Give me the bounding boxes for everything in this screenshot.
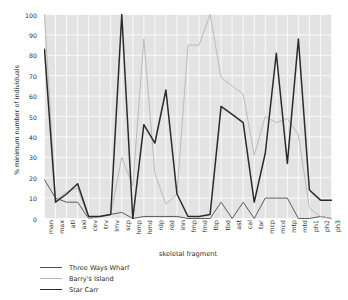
x-tick-label: mcd (279, 220, 286, 234)
plot-area (44, 14, 332, 219)
x-tick-label: cev (91, 220, 98, 231)
y-axis-tick-labels: 0102030405060708090100 (0, 14, 41, 219)
x-axis-title: skeletal fragment (44, 250, 332, 258)
x-tick-label: inn (179, 220, 186, 230)
legend-swatch (40, 289, 62, 290)
x-tick-label: ph3 (334, 220, 341, 232)
x-tick-label: ast (235, 220, 242, 230)
legend-item: Barry's Island (40, 273, 220, 284)
legend-label: Three Ways Wharf (69, 264, 129, 272)
y-tick-label: 0 (33, 215, 37, 222)
x-tick-label: trv (102, 220, 109, 229)
y-tick-label: 90 (29, 31, 37, 38)
x-tick-label: max (58, 220, 65, 234)
x-tick-label: rdd (168, 220, 175, 231)
y-tick-label: 40 (29, 133, 37, 140)
y-tick-label: 60 (29, 93, 37, 100)
legend-item: Star Carr (40, 284, 220, 295)
x-tick-label: cal (246, 220, 253, 229)
series-line-1 (45, 15, 332, 219)
x-tick-label: mcp (268, 220, 275, 234)
x-axis-tick-labels: manmaxatlaxicevtrvlmvscphmphmdrdprddinnf… (44, 220, 332, 250)
y-tick-label: 70 (29, 72, 37, 79)
y-tick-label: 30 (29, 154, 37, 161)
y-tick-label: 100 (25, 11, 37, 18)
chart-legend: Three Ways WharfBarry's IslandStar Carr (40, 262, 220, 295)
x-tick-label: man (47, 220, 54, 234)
y-tick-label: 80 (29, 52, 37, 59)
legend-swatch (40, 278, 62, 279)
x-tick-label: fmp (190, 220, 197, 232)
x-tick-label: fmd (201, 220, 208, 232)
y-tick-label: 10 (29, 195, 37, 202)
y-tick-label: 20 (29, 174, 37, 181)
x-tick-label: ph1 (312, 220, 319, 232)
x-tick-label: tbp (212, 220, 219, 231)
x-tick-label: hmp (135, 220, 142, 234)
chart-figure: % minimum number of individuals 01020304… (0, 0, 348, 300)
x-tick-label: ph2 (323, 220, 330, 232)
x-tick-label: lmv (113, 220, 120, 232)
legend-swatch (40, 267, 62, 268)
x-tick-label: axi (80, 220, 87, 229)
legend-label: Barry's Island (69, 275, 114, 283)
legend-label: Star Carr (69, 286, 99, 294)
y-tick-label: 50 (29, 113, 37, 120)
x-tick-label: rdp (157, 220, 164, 231)
x-tick-label: atl (69, 220, 76, 228)
x-tick-label: tbd (224, 220, 231, 231)
x-tick-label: scp (124, 220, 131, 231)
legend-item: Three Ways Wharf (40, 262, 220, 273)
x-tick-label: hmd (146, 220, 153, 234)
series-lines (44, 14, 332, 219)
x-tick-label: tar (257, 220, 264, 229)
x-tick-label: mtp (290, 220, 297, 233)
x-tick-label: mtd (301, 220, 308, 233)
